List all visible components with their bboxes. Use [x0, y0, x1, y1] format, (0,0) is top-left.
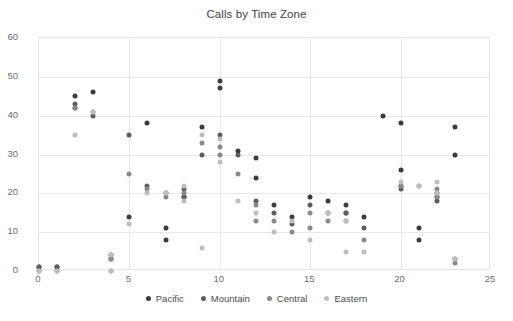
data-point-central: [235, 171, 240, 176]
gridline-horizontal: [39, 232, 489, 233]
data-point-eastern: [344, 218, 349, 223]
data-point-pacific: [398, 121, 403, 126]
gridline-horizontal: [39, 77, 489, 78]
y-axis-tick-50: 50: [0, 70, 18, 81]
data-point-central: [253, 218, 258, 223]
data-point-eastern: [326, 210, 331, 215]
legend-marker-icon: [201, 296, 206, 301]
data-point-pacific: [163, 226, 168, 231]
data-point-mountain: [127, 133, 132, 138]
data-point-eastern: [109, 253, 114, 258]
legend-marker-icon: [146, 296, 151, 301]
data-point-pacific: [73, 94, 78, 99]
data-point-pacific: [253, 175, 258, 180]
data-point-pacific: [163, 237, 168, 242]
data-point-eastern: [145, 191, 150, 196]
data-point-eastern: [235, 199, 240, 204]
data-point-central: [253, 202, 258, 207]
gridline-vertical: [401, 38, 402, 269]
data-point-pacific: [217, 86, 222, 91]
data-point-eastern: [91, 109, 96, 114]
legend-label: Eastern: [334, 293, 367, 304]
legend-item-central[interactable]: Central: [267, 293, 308, 304]
data-point-eastern: [398, 179, 403, 184]
legend-label: Mountain: [211, 293, 250, 304]
data-point-pacific: [253, 156, 258, 161]
data-point-pacific: [416, 226, 421, 231]
gridline-vertical: [129, 38, 130, 269]
data-point-eastern: [199, 245, 204, 250]
legend-item-pacific[interactable]: Pacific: [146, 293, 184, 304]
data-point-eastern: [272, 230, 277, 235]
data-point-eastern: [434, 191, 439, 196]
y-axis-tick-0: 0: [0, 264, 18, 275]
gridline-horizontal: [39, 155, 489, 156]
data-point-pacific: [145, 121, 150, 126]
data-point-pacific: [344, 202, 349, 207]
data-point-pacific: [199, 125, 204, 130]
data-point-eastern: [127, 222, 132, 227]
data-point-pacific: [362, 214, 367, 219]
x-axis-tick-20: 20: [380, 273, 420, 284]
data-point-central: [272, 218, 277, 223]
data-point-mountain: [308, 202, 313, 207]
data-point-eastern: [253, 210, 258, 215]
data-point-pacific: [380, 113, 385, 118]
data-point-pacific: [416, 237, 421, 242]
data-point-central: [217, 144, 222, 149]
chart-legend: PacificMountainCentralEastern: [0, 293, 513, 304]
data-point-pacific: [452, 125, 457, 130]
data-point-eastern: [181, 183, 186, 188]
y-axis-tick-10: 10: [0, 225, 18, 236]
data-point-pacific: [452, 152, 457, 157]
legend-label: Pacific: [156, 293, 184, 304]
data-point-pacific: [272, 202, 277, 207]
x-axis-tick-0: 0: [18, 273, 58, 284]
data-point-pacific: [217, 78, 222, 83]
x-axis-tick-15: 15: [289, 273, 329, 284]
data-point-central: [217, 152, 222, 157]
data-point-pacific: [308, 195, 313, 200]
data-point-eastern: [73, 133, 78, 138]
data-point-central: [362, 237, 367, 242]
gridline-vertical: [310, 38, 311, 269]
data-point-eastern: [163, 191, 168, 196]
data-point-central: [127, 171, 132, 176]
data-point-mountain: [362, 226, 367, 231]
data-point-pacific: [91, 90, 96, 95]
data-point-central: [290, 230, 295, 235]
data-point-pacific: [326, 199, 331, 204]
data-point-eastern: [217, 136, 222, 141]
data-point-eastern: [308, 237, 313, 242]
x-axis-tick-5: 5: [108, 273, 148, 284]
data-point-central: [308, 226, 313, 231]
data-point-eastern: [344, 249, 349, 254]
x-axis-tick-10: 10: [199, 273, 239, 284]
gridline-horizontal: [39, 116, 489, 117]
y-axis-tick-30: 30: [0, 148, 18, 159]
y-axis-tick-60: 60: [0, 31, 18, 42]
y-axis-tick-20: 20: [0, 186, 18, 197]
chart-title: Calls by Time Zone: [0, 8, 513, 20]
data-point-eastern: [290, 218, 295, 223]
legend-label: Central: [277, 293, 308, 304]
data-point-mountain: [199, 152, 204, 157]
legend-marker-icon: [324, 296, 329, 301]
data-point-eastern: [362, 249, 367, 254]
data-point-eastern: [434, 179, 439, 184]
data-point-central: [326, 218, 331, 223]
x-axis-tick-25: 25: [470, 273, 510, 284]
scatter-chart: Calls by Time Zone PacificMountainCentra…: [0, 0, 513, 321]
plot-area: [38, 37, 490, 270]
data-point-pacific: [127, 214, 132, 219]
data-point-central: [308, 210, 313, 215]
data-point-mountain: [272, 210, 277, 215]
data-point-eastern: [217, 160, 222, 165]
data-point-central: [181, 191, 186, 196]
data-point-mountain: [235, 152, 240, 157]
legend-item-eastern[interactable]: Eastern: [324, 293, 367, 304]
legend-marker-icon: [267, 296, 272, 301]
legend-item-mountain[interactable]: Mountain: [201, 293, 250, 304]
data-point-eastern: [416, 183, 421, 188]
data-point-eastern: [181, 199, 186, 204]
